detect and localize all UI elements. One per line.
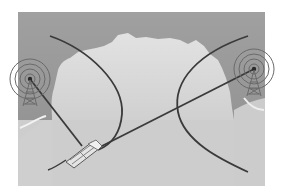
diagram-canvas: [0, 0, 283, 196]
triangulation-diagram: [0, 0, 283, 196]
frame-light-bottom: [18, 120, 265, 186]
frame-light-right-curl: [234, 98, 265, 186]
